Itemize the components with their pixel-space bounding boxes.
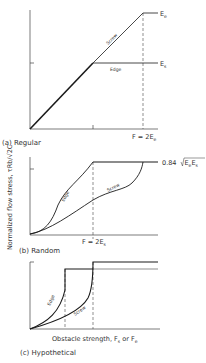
- svg-text:0.84: 0.84: [162, 159, 176, 167]
- panel-a-regular: Screw Edge Ee Es F = 2Ee (a) Regular: [2, 10, 167, 147]
- panel-a-es-label: Es: [160, 60, 167, 69]
- panel-c-caption: (c) Hypothetical: [20, 349, 76, 357]
- panel-b-level-label: 0.84 EeEs: [162, 158, 205, 168]
- panel-c-hypothetical: Edge Screw Obstacle strength, Fs or Fe (…: [20, 262, 160, 357]
- panel-a-x-marker-label: F = 2Ee: [132, 133, 157, 142]
- svg-text:EeEs: EeEs: [185, 159, 199, 168]
- panel-b-caption: (b) Random: [19, 247, 60, 255]
- panel-c-screw-curve: [30, 262, 158, 329]
- panel-a-edge-label: Edge: [110, 67, 122, 72]
- x-axis-label: Obstacle strength, Fs or Fe: [52, 335, 138, 344]
- panel-b-random: Edge Screw 0.84 EeEs F = 2Es (b) Random: [19, 157, 205, 255]
- panel-b-x-marker-label: F = 2Es: [82, 238, 107, 247]
- panel-b-screw-curve: [30, 162, 143, 234]
- panel-b-edge-label: Edge: [60, 190, 70, 203]
- panel-a-ee-label: Ee: [160, 10, 167, 19]
- y-axis-label: Normalized flow stress, τRb/√2C: [6, 144, 14, 250]
- panel-c-edge-label: Edge: [46, 294, 55, 307]
- flow-stress-diagram: Normalized flow stress, τRb/√2C Screw Ed…: [0, 0, 206, 363]
- panel-c-edge-curve: [30, 269, 93, 329]
- panel-a-shared-segment: [30, 63, 93, 129]
- panel-a-screw-curve: [93, 13, 158, 63]
- panel-a-caption: (a) Regular: [2, 139, 41, 147]
- panel-c-screw-label: Screw: [73, 305, 87, 317]
